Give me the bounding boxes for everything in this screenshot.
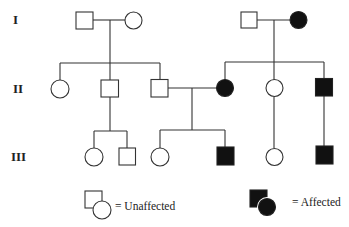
individual-II-1-female-unaffected: [51, 80, 69, 98]
pedigree-diagram: I II III: [0, 0, 349, 227]
individual-I-3-male-unaffected: [241, 12, 257, 28]
individual-II-5-female-unaffected: [266, 80, 283, 97]
legend-unaffected-circle-icon: [93, 201, 111, 219]
generation-label-2: II: [13, 81, 23, 96]
legend-affected: = Affected: [250, 190, 341, 217]
individual-I-2-female-unaffected: [125, 12, 142, 29]
generation-label-3: III: [11, 149, 26, 164]
individual-III-3-female-unaffected: [151, 148, 169, 166]
individual-III-6-male-affected: [316, 146, 333, 164]
legend-affected-circle-icon: [259, 199, 276, 216]
individual-III-2-male-unaffected: [119, 148, 136, 165]
individual-III-4-male-affected: [217, 147, 234, 165]
connector-lines: [60, 20, 324, 148]
generation-label-1: I: [13, 12, 18, 27]
individual-II-2-male-unaffected: [101, 80, 119, 97]
individual-III-1-female-unaffected: [85, 148, 103, 166]
individual-III-5-female-unaffected: [266, 149, 283, 166]
individual-II-4-female-affected: [217, 80, 234, 97]
legend-unaffected: = Unaffected: [85, 191, 175, 219]
individual-II-6-male-affected: [316, 79, 333, 97]
individual-II-3-male-unaffected: [151, 80, 168, 98]
legend-unaffected-label: = Unaffected: [115, 200, 175, 212]
individual-I-1-male-unaffected: [76, 12, 93, 29]
individual-I-4-female-affected: [290, 12, 307, 29]
legend-affected-label: = Affected: [292, 196, 341, 208]
